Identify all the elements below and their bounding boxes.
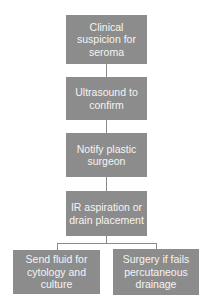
node-notify-surgeon: Notify plastic surgeon — [66, 133, 147, 177]
node-label: Surgery if fails percutaneous drainage — [116, 253, 196, 291]
connector — [57, 243, 58, 250]
node-label: IR aspiration or drain placement — [69, 201, 144, 226]
node-label: Notify plastic surgeon — [69, 143, 144, 168]
node-label: Send fluid for cytology and culture — [16, 253, 97, 291]
node-label: Clinical suspicion for seroma — [69, 21, 144, 59]
node-ir-aspiration: IR aspiration or drain placement — [66, 191, 147, 236]
connector — [106, 120, 107, 133]
node-clinical-suspicion: Clinical suspicion for seroma — [66, 15, 147, 64]
node-ultrasound: Ultrasound to confirm — [66, 77, 147, 120]
node-surgery: Surgery if fails percutaneous drainage — [113, 249, 199, 295]
node-send-fluid: Send fluid for cytology and culture — [13, 250, 100, 294]
branch-connector — [57, 243, 157, 244]
connector — [106, 177, 107, 191]
node-label: Ultrasound to confirm — [69, 86, 144, 111]
connector — [106, 236, 107, 243]
connector — [106, 64, 107, 77]
